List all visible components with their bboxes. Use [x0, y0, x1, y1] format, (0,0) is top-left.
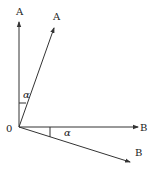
- label-b-horizontal: B: [140, 122, 147, 133]
- label-a-rotated: A: [52, 11, 61, 22]
- alpha-label-a: α: [23, 89, 30, 100]
- vector-b-rotated: [19, 127, 130, 162]
- label-b-rotated: B: [135, 147, 142, 158]
- vector-a-rotated: [19, 28, 54, 127]
- label-a-vertical: A: [15, 6, 24, 17]
- rotation-diagram: A A B B 0 α α: [0, 0, 155, 173]
- alpha-label-b: α: [64, 127, 71, 138]
- origin-label: 0: [6, 123, 12, 134]
